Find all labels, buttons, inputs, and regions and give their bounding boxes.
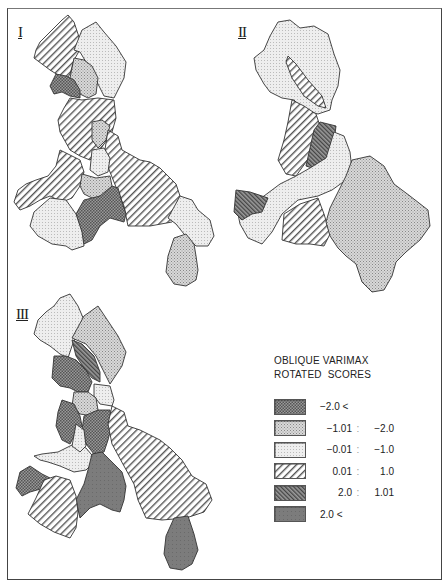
map-III bbox=[16, 294, 212, 570]
legend-sep: : bbox=[352, 423, 364, 434]
legend-from: −1.01 bbox=[306, 423, 352, 434]
legend-item: −2.0 < bbox=[274, 396, 434, 418]
region bbox=[164, 516, 198, 570]
legend-from: 2.0 bbox=[306, 487, 352, 498]
region bbox=[34, 444, 96, 472]
legend-to: −1.0 bbox=[364, 444, 394, 455]
legend-from: −2.0 < bbox=[306, 401, 366, 412]
swatch-diagonal-hatch bbox=[274, 463, 306, 479]
legend-to: 1.0 bbox=[364, 466, 394, 477]
legend-item: −1.01 : −2.0 bbox=[274, 418, 434, 440]
legend-item: 0.01 : 1.0 bbox=[274, 461, 434, 483]
legend-to: −2.0 bbox=[364, 423, 394, 434]
region bbox=[108, 406, 212, 520]
map-label-III: III bbox=[16, 306, 28, 323]
legend-sep: : bbox=[352, 487, 364, 498]
legend: OBLIQUE VARIMAX ROTATED SCORES −2.0 < −1… bbox=[274, 354, 434, 525]
map-label-I: I bbox=[18, 24, 22, 41]
swatch-dense-crosshatch bbox=[274, 399, 306, 415]
legend-item: −0.01 : −1.0 bbox=[274, 439, 434, 461]
swatch-solid-dark bbox=[274, 506, 306, 522]
region bbox=[90, 148, 110, 176]
region bbox=[76, 186, 126, 244]
swatch-medium-dots bbox=[274, 420, 306, 436]
legend-from: 0.01 bbox=[306, 466, 352, 477]
legend-from: 2.0 < bbox=[306, 509, 366, 520]
legend-sep: : bbox=[352, 466, 364, 477]
map-I bbox=[14, 15, 214, 286]
map-II bbox=[234, 20, 430, 292]
swatch-dense-diagonal-hatch bbox=[274, 485, 306, 501]
legend-title-line2: ROTATED SCORES bbox=[274, 368, 434, 382]
region bbox=[82, 410, 112, 454]
legend-item: 2.0 < bbox=[274, 504, 434, 526]
legend-sep: : bbox=[352, 444, 364, 455]
legend-to: 1.01 bbox=[364, 487, 394, 498]
region bbox=[30, 198, 84, 250]
legend-title-line1: OBLIQUE VARIMAX bbox=[274, 354, 434, 368]
swatch-light-dots bbox=[274, 442, 306, 458]
legend-item: 2.0 : 1.01 bbox=[274, 482, 434, 504]
map-label-II: II bbox=[238, 24, 246, 41]
legend-from: −0.01 bbox=[306, 444, 352, 455]
